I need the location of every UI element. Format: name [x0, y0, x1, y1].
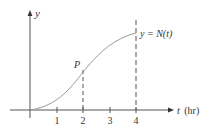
tick-label-4: 4: [134, 115, 139, 126]
curve-label: y = N(t): [139, 28, 173, 40]
x-axis-arrow-icon: [168, 108, 174, 113]
growth-curve-diagram: y t (hr) 1 2 3 4 P y = N(t): [0, 0, 203, 128]
point-P-label: P: [73, 59, 80, 70]
tick-label-1: 1: [55, 115, 60, 126]
tick-label-2: 2: [81, 115, 86, 126]
y-axis-arrow-icon: [28, 10, 33, 16]
y-axis-label: y: [34, 7, 40, 19]
tick-label-3: 3: [108, 115, 113, 126]
x-axis-label: t (hr): [177, 105, 199, 117]
